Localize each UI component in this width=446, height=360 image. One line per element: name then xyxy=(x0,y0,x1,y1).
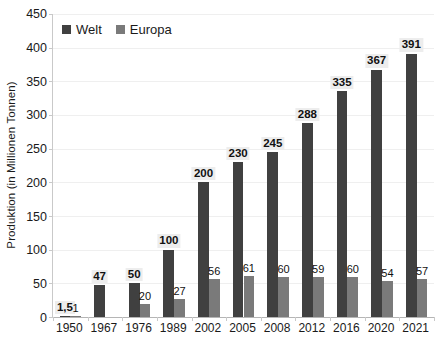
bar-europa-1989[interactable] xyxy=(174,299,185,317)
bar-value-label: 27 xyxy=(173,286,185,297)
x-axis-tick-mark xyxy=(157,317,158,321)
bar-value-label: 1 xyxy=(73,303,79,314)
y-axis-tick-mark xyxy=(49,182,53,183)
x-axis-tick-mark xyxy=(122,317,123,321)
y-axis-tick-label: 0 xyxy=(40,312,47,325)
bar-europa-2012[interactable] xyxy=(313,277,324,317)
y-axis-tick-mark xyxy=(49,216,53,217)
x-axis-tick-label: 2020 xyxy=(368,322,395,334)
bar-europa-2002[interactable] xyxy=(209,279,220,317)
bar-welt-2012[interactable] xyxy=(302,123,313,317)
y-axis-tick-label: 150 xyxy=(26,210,47,223)
bar-value-label: 245 xyxy=(261,137,284,151)
legend-label: Welt xyxy=(76,22,102,37)
bar-value-label: 20 xyxy=(139,291,151,302)
bar-value-label: 200 xyxy=(192,167,215,181)
bar-europa-2016[interactable] xyxy=(347,277,358,317)
bar-welt-2021[interactable] xyxy=(406,54,417,317)
y-axis-title-text: Produktion (in Millionen Tonnen) xyxy=(5,81,17,248)
y-axis-tick-label: 400 xyxy=(26,42,47,55)
x-axis-tick-label: 2008 xyxy=(264,322,291,334)
bar-value-label: 50 xyxy=(126,268,143,282)
x-axis-tick-label: 1950 xyxy=(56,322,83,334)
x-axis-tick-mark xyxy=(365,317,366,321)
y-axis-tick-mark xyxy=(49,283,53,284)
bar-welt-2016[interactable] xyxy=(337,91,348,317)
x-axis-tick-label: 1967 xyxy=(91,322,118,334)
bar-value-label: 288 xyxy=(296,108,319,122)
y-axis-tick-mark xyxy=(49,149,53,150)
legend-label: Europa xyxy=(130,22,172,37)
x-axis-tick-mark xyxy=(434,317,435,321)
y-axis-tick-label: 350 xyxy=(26,75,47,88)
x-axis-tick-label: 1976 xyxy=(125,322,152,334)
y-axis-tick-label: 450 xyxy=(26,8,47,21)
chart-legend: WeltEuropa xyxy=(62,22,172,37)
bar-welt-1950[interactable] xyxy=(60,316,71,317)
y-axis-tick-labels: 050100150200250300350400450 xyxy=(18,14,51,318)
y-axis-tick-mark xyxy=(49,81,53,82)
bar-value-label: 54 xyxy=(381,268,393,279)
bar-value-label: 100 xyxy=(157,234,180,248)
gridline xyxy=(53,14,434,15)
x-axis-tick-mark xyxy=(261,317,262,321)
y-axis-tick-mark xyxy=(49,115,53,116)
bar-europa-1976[interactable] xyxy=(140,304,151,317)
x-axis-tick-mark xyxy=(226,317,227,321)
bar-value-label: 59 xyxy=(312,264,324,275)
y-axis-tick-mark xyxy=(49,250,53,251)
y-axis-tick-label: 200 xyxy=(26,177,47,190)
y-axis-tick-label: 100 xyxy=(26,244,47,257)
x-axis-tick-mark xyxy=(88,317,89,321)
bar-welt-2020[interactable] xyxy=(371,70,382,317)
bar-welt-1989[interactable] xyxy=(163,250,174,317)
x-axis-tick-mark xyxy=(192,317,193,321)
bar-welt-2005[interactable] xyxy=(233,162,244,317)
legend-entry-europa[interactable]: Europa xyxy=(116,22,172,37)
bar-value-label: 367 xyxy=(365,54,388,68)
x-axis-tick-label: 2005 xyxy=(229,322,256,334)
bar-value-label: 57 xyxy=(416,266,428,277)
x-axis-tick-mark xyxy=(399,317,400,321)
bar-europa-2005[interactable] xyxy=(244,276,255,317)
bar-value-label: 391 xyxy=(400,38,423,52)
y-axis-tick-mark xyxy=(49,48,53,49)
x-axis-tick-mark xyxy=(295,317,296,321)
bar-value-label: 56 xyxy=(208,266,220,277)
square-marker-icon xyxy=(116,25,125,34)
bar-welt-2002[interactable] xyxy=(198,182,209,317)
x-axis-tick-label: 2021 xyxy=(402,322,429,334)
square-marker-icon xyxy=(62,25,71,34)
bar-europa-2008[interactable] xyxy=(278,277,289,317)
bar-europa-2021[interactable] xyxy=(417,279,428,317)
y-axis-tick-label: 50 xyxy=(33,278,47,291)
x-axis-tick-mark xyxy=(53,317,54,321)
gridline xyxy=(53,48,434,49)
bar-welt-2008[interactable] xyxy=(267,152,278,317)
y-axis-tick-label: 250 xyxy=(26,143,47,156)
x-axis-tick-label: 2002 xyxy=(195,322,222,334)
bar-value-label: 47 xyxy=(91,270,108,284)
bar-value-label: 335 xyxy=(330,76,353,90)
bar-value-label: 61 xyxy=(243,263,255,274)
plot-area: 1,51475020100272005623061245602885933560… xyxy=(52,14,434,318)
bar-chart: Produktion (in Millionen Tonnen) 0501001… xyxy=(0,0,446,360)
y-axis-tick-label: 300 xyxy=(26,109,47,122)
bar-europa-1950[interactable] xyxy=(70,316,81,317)
x-axis-tick-label: 2012 xyxy=(298,322,325,334)
bar-value-label: 230 xyxy=(227,147,250,161)
legend-entry-welt[interactable]: Welt xyxy=(62,22,102,37)
y-axis-tick-mark xyxy=(49,14,53,15)
x-axis-tick-mark xyxy=(330,317,331,321)
bar-europa-2020[interactable] xyxy=(382,281,393,317)
x-axis-tick-labels: 1950196719761989200220052008201220162020… xyxy=(52,322,434,342)
x-axis-tick-label: 2016 xyxy=(333,322,360,334)
x-axis-tick-label: 1989 xyxy=(160,322,187,334)
bar-welt-1967[interactable] xyxy=(94,285,105,317)
bar-value-label: 60 xyxy=(277,264,289,275)
bar-value-label: 60 xyxy=(347,264,359,275)
